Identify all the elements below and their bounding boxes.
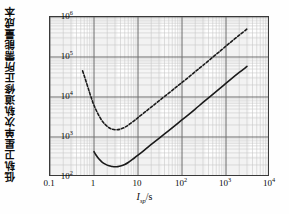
y-tick-label: 104 — [61, 91, 73, 101]
y-axis-title-text: 低轨卫星单次轨道修正所需能量成本 — [5, 6, 16, 182]
plot-canvas — [50, 17, 269, 176]
x-tick-label: 103 — [219, 178, 231, 188]
x-tick-label: 104 — [263, 178, 275, 188]
chart-figure: 低轨卫星单次轨道修正所需能量成本 106 105 104 103 102 0.1… — [0, 0, 289, 214]
x-axis-title: Isp/s — [0, 191, 289, 202]
y-tick-label: 105 — [61, 51, 73, 61]
y-tick-label: 103 — [61, 131, 73, 141]
x-tick-label: 102 — [175, 178, 187, 188]
x-tick-label: 1 — [91, 178, 96, 188]
plot-area — [49, 16, 269, 176]
x-axis-unit: /s — [146, 191, 153, 202]
x-tick-label: 0.1 — [43, 178, 54, 188]
y-tick-label: 102 — [61, 171, 73, 181]
x-tick-label: 10 — [133, 178, 142, 188]
y-axis-title: 低轨卫星单次轨道修正所需能量成本 — [2, 8, 18, 180]
y-tick-label: 106 — [61, 11, 73, 21]
